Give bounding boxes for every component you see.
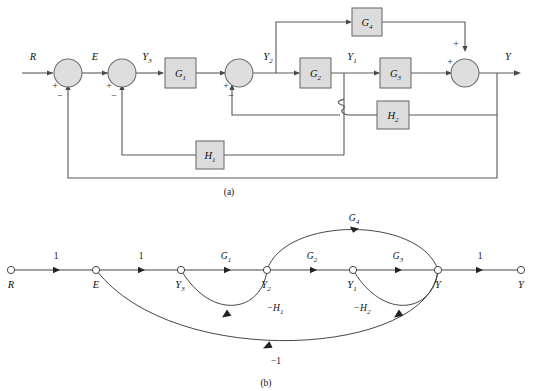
sfg-node-y1[interactable] xyxy=(349,266,356,273)
sfg-gain-label-g4: G4 xyxy=(349,213,360,226)
arrowhead-branch-y3-y2 xyxy=(224,267,231,273)
signal-label-y1: Y1 xyxy=(347,51,356,65)
summer-3-minus-sign: − xyxy=(228,90,234,101)
wire-outer-feedback xyxy=(68,86,497,178)
arrowhead-r-input xyxy=(47,70,53,75)
wire-h2-to-summer3 xyxy=(232,86,340,115)
figure-container: G1 G2 G3 G4 H1 H2 R E Y3 Y2 Y1 Y + − + −… xyxy=(0,0,533,391)
summer-1[interactable] xyxy=(54,59,82,87)
sfg-node-e[interactable] xyxy=(92,266,99,273)
wire-crossover-hop xyxy=(338,99,348,115)
arrowhead-e xyxy=(102,70,108,75)
arrowhead-g4-in xyxy=(346,19,352,24)
arrowhead-g3-in xyxy=(374,70,380,75)
sfg-node-label-y3: Y3 xyxy=(175,279,185,293)
arrowhead-summer4-top xyxy=(462,46,467,52)
sfg-node-y2[interactable] xyxy=(263,266,270,273)
panel-b-signal-flow-graph: R E Y3 Y2 Y1 Y Y 1 1 G1 G2 G3 1 G4 −H1 −… xyxy=(7,213,525,389)
sfg-node-label-e: E xyxy=(92,279,100,290)
sfg-arc-h1 xyxy=(181,270,267,305)
sfg-gain-label-h2: −H2 xyxy=(354,303,371,316)
summer-2-minus-sign: − xyxy=(111,90,117,101)
summer-4-left-plus-sign: + xyxy=(447,56,453,67)
sfg-arc-h2 xyxy=(353,270,438,305)
sfg-gain-label-y-yout: 1 xyxy=(478,251,483,261)
summer-4-top-plus-sign: + xyxy=(453,38,459,49)
sfg-gain-label-g1: G1 xyxy=(221,251,231,264)
signal-label-e: E xyxy=(91,51,99,62)
sfg-arc-g4 xyxy=(267,230,438,271)
summer-3[interactable] xyxy=(225,59,253,87)
signal-label-y2: Y2 xyxy=(263,51,273,65)
sfg-gain-label-e-y3: 1 xyxy=(139,251,144,261)
sfg-node-r[interactable] xyxy=(7,266,14,273)
sfg-node-y3[interactable] xyxy=(177,266,184,273)
summer-1-minus-sign: − xyxy=(57,90,63,101)
panel-a-caption: (a) xyxy=(224,187,235,198)
arrowhead-y-output xyxy=(514,70,521,76)
signal-label-y3: Y3 xyxy=(142,51,152,65)
arrowhead-y3 xyxy=(158,70,164,75)
sfg-gain-label-h1: −H1 xyxy=(267,303,284,316)
sfg-gain-label-g2: G2 xyxy=(307,251,318,264)
sfg-node-label-y: Y xyxy=(435,279,442,290)
signal-label-r: R xyxy=(29,51,37,62)
sfg-node-label-r: R xyxy=(7,279,15,290)
panel-b-caption: (b) xyxy=(260,378,271,389)
summer-4[interactable] xyxy=(451,59,479,87)
arrowhead-branch-e-y3 xyxy=(138,267,145,273)
arrowhead-branch-y1-y xyxy=(395,267,402,273)
arrowhead-branch-y2-y1 xyxy=(310,267,317,273)
arrowhead-branch-r-e xyxy=(53,267,60,273)
panel-a-block-diagram: G1 G2 G3 G4 H1 H2 R E Y3 Y2 Y1 Y + − + −… xyxy=(22,8,521,198)
arrowhead-arc-unity xyxy=(263,341,273,348)
arrowhead-branch-y-yout xyxy=(476,267,483,273)
control-system-figure: G1 G2 G3 G4 H1 H2 R E Y3 Y2 Y1 Y + − + −… xyxy=(0,0,533,391)
sfg-gain-label-g3: G3 xyxy=(393,251,404,264)
sfg-gain-label-unity: −1 xyxy=(271,356,281,366)
sfg-node-y-output[interactable] xyxy=(517,266,524,273)
sfg-node-label-y-output: Y xyxy=(518,279,525,290)
arrowhead-arc-h2 xyxy=(394,310,403,318)
sfg-node-label-y2: Y2 xyxy=(261,279,271,293)
summer-2[interactable] xyxy=(108,59,136,87)
signal-label-y-output: Y xyxy=(505,51,512,62)
sfg-node-y[interactable] xyxy=(434,266,441,273)
arrowhead-g2-in xyxy=(294,70,300,75)
arrowhead-arc-h1 xyxy=(222,310,231,318)
wire-h1-to-summer2 xyxy=(122,86,196,155)
sfg-node-label-y1: Y1 xyxy=(347,279,356,293)
sfg-gain-label-r-e: 1 xyxy=(54,251,59,261)
